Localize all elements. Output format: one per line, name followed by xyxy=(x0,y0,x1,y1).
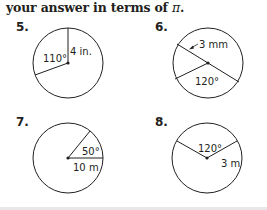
angle-label-5: 110° xyxy=(43,53,67,64)
problem-6-figure: 3 mm 120° xyxy=(173,28,243,98)
bottom-divider xyxy=(0,207,267,210)
center-dot-8 xyxy=(205,156,208,159)
arrowhead-6-icon xyxy=(189,46,194,50)
problem-8-figure: 120° 3 m xyxy=(172,123,242,193)
angle-label-7: 50° xyxy=(82,146,100,157)
problem-5-figure: 4 in. 110° xyxy=(33,28,103,98)
radius-label-7: 10 m xyxy=(73,162,99,173)
figures-canvas: 4 in. 110° 3 mm 120° 50° 10 m 120° 3 m xyxy=(0,0,267,210)
center-dot-6 xyxy=(206,61,209,64)
angle-label-6: 120° xyxy=(195,76,219,87)
radius-label-5: 4 in. xyxy=(70,46,92,57)
radius-5-angled xyxy=(35,63,68,75)
center-dot-7 xyxy=(66,156,69,159)
radius-label-6: 3 mm xyxy=(199,39,228,50)
radius-label-8: 3 m xyxy=(221,158,240,169)
angle-label-8: 120° xyxy=(198,143,222,154)
problem-7-figure: 50° 10 m xyxy=(33,123,103,193)
